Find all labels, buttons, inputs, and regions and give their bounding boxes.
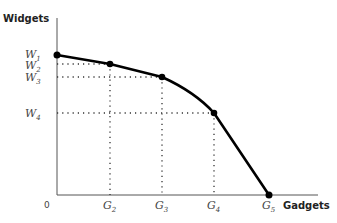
- x-tick-g5: G5: [262, 199, 276, 214]
- y-axis-title: Widgets: [3, 13, 49, 24]
- guide-lines: [57, 64, 214, 195]
- ppf-chart: Widgets Gadgets 0 W1 W2 W3 W4 G2 G3 G4 G…: [0, 0, 337, 223]
- x-tick-g4: G4: [207, 199, 220, 214]
- origin-label: 0: [44, 200, 50, 210]
- y-tick-w4: W4: [25, 107, 41, 122]
- data-points: [54, 52, 273, 199]
- x-tick-g3: G3: [155, 199, 169, 214]
- x-tick-g2: G2: [103, 199, 117, 214]
- x-axis-title: Gadgets: [283, 200, 330, 211]
